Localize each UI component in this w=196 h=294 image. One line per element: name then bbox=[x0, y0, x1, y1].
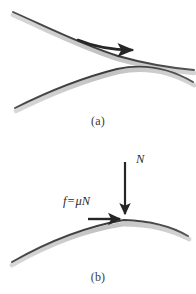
upper-curved-surface bbox=[13, 12, 194, 70]
normal-force-variable: N bbox=[136, 152, 144, 166]
panel-b-graphics bbox=[12, 162, 189, 265]
normal-force-label: N bbox=[136, 152, 144, 167]
panel-b-caption: (b) bbox=[0, 270, 196, 285]
friction-normal-variable: N bbox=[82, 194, 90, 208]
friction-force-label: f=μN bbox=[63, 194, 90, 209]
figure-canvas bbox=[0, 0, 196, 294]
panel-a-graphics bbox=[13, 12, 194, 111]
convex-surface-shadow bbox=[12, 224, 189, 265]
figure-root: N f=μN (a) (b) bbox=[0, 0, 196, 294]
friction-equals-sign: = bbox=[66, 194, 75, 208]
panel-a-caption: (a) bbox=[0, 114, 196, 129]
lower-curved-surface-shadow bbox=[16, 70, 194, 111]
